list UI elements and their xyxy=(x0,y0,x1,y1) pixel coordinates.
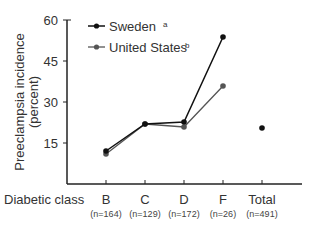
legend-united-states: United States xyxy=(109,40,188,55)
total-point xyxy=(259,125,265,131)
n-label: (n=491) xyxy=(246,209,277,219)
svg-text:Preeclampsia incidence: Preeclampsia incidence xyxy=(12,33,27,170)
chart: 60 45 30 15 Preeclampsia incidence (perc… xyxy=(0,0,312,226)
y-tick-label: 45 xyxy=(44,54,58,69)
svg-text:b: b xyxy=(185,41,190,50)
n-label: (n=164) xyxy=(90,209,121,219)
svg-text:(percent): (percent) xyxy=(26,76,41,128)
x-tick-label: B xyxy=(102,192,111,207)
y-tick-label: 30 xyxy=(44,95,58,110)
x-axis-label: Diabetic class xyxy=(4,192,85,207)
n-label: (n=129) xyxy=(129,209,160,219)
y-tick-label: 60 xyxy=(44,13,58,28)
x-tick-label: Total xyxy=(248,192,276,207)
x-tick-label: C xyxy=(140,192,149,207)
legend: Sweden a United States b xyxy=(88,19,190,55)
legend-sweden: Sweden xyxy=(109,19,156,34)
x-tick-label: F xyxy=(219,192,227,207)
n-label: (n=26) xyxy=(210,209,236,219)
series-united-states xyxy=(103,83,226,157)
x-tick-label: D xyxy=(179,192,188,207)
y-axis-label: Preeclampsia incidence (percent) xyxy=(12,33,41,170)
n-label: (n=172) xyxy=(168,209,199,219)
y-tick-label: 15 xyxy=(44,136,58,151)
svg-text:a: a xyxy=(163,20,168,29)
